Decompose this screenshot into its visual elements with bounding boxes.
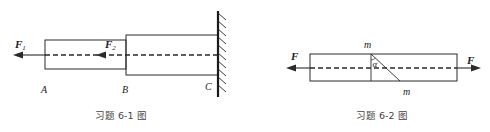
force-arrow-left: [286, 65, 310, 72]
bar-segment-bc: [126, 35, 218, 75]
figure-6-2: F F m m α 习题 6-2 图: [286, 39, 481, 121]
diagram-canvas: F1 F2 A B C 习题 6-1 图 F F: [0, 0, 490, 132]
label-point-b: B: [122, 84, 128, 95]
force-arrow-f2: [96, 52, 106, 59]
label-force-left: F: [290, 50, 299, 62]
force-arrow-f1: [13, 52, 46, 59]
label-point-a: A: [40, 84, 48, 95]
caption-6-1: 习题 6-1 图: [95, 110, 147, 121]
label-point-c: C: [205, 81, 212, 92]
label-f1: F1: [14, 38, 26, 52]
fixed-wall: [218, 11, 226, 97]
figure-6-1: F1 F2 A B C 习题 6-1 图: [13, 11, 226, 121]
caption-6-2: 习题 6-2 图: [356, 110, 408, 121]
label-angle-alpha: α: [373, 59, 378, 69]
label-section-m-bottom: m: [403, 86, 410, 97]
label-force-right: F: [466, 54, 475, 66]
label-section-m-top: m: [364, 39, 371, 50]
